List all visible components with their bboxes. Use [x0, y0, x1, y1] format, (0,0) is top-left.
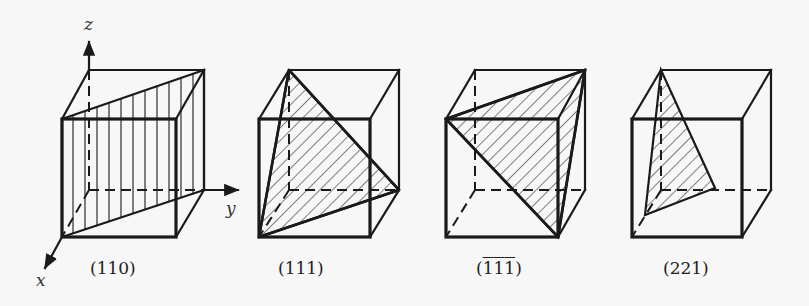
label-110: (110) — [90, 258, 136, 278]
plane-111 — [259, 70, 399, 237]
label-neg111: (111) — [476, 258, 522, 278]
cube-111 — [259, 70, 399, 237]
label-111: (111) — [278, 258, 324, 278]
plane-110 — [62, 70, 204, 237]
cube-neg111 — [446, 70, 585, 237]
y-axis-label: y — [226, 198, 236, 218]
cube-110 — [45, 42, 238, 268]
x-axis-arrow — [45, 237, 62, 268]
cube-221 — [632, 70, 771, 237]
z-axis-label: z — [84, 14, 93, 34]
label-221: (221) — [663, 258, 709, 278]
plane-221 — [645, 70, 715, 215]
miller-indices-figure: z y x (110) (111) (111) (221) — [0, 0, 809, 306]
x-axis-label: x — [36, 270, 46, 290]
